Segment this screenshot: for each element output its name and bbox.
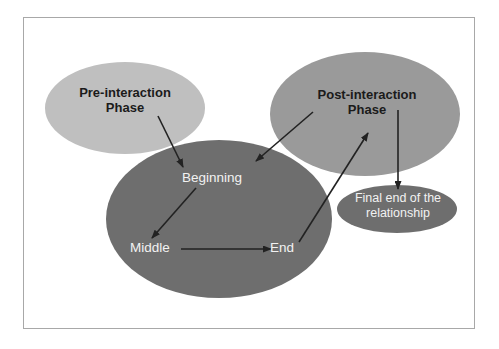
ellipse-post-interaction [270,52,460,176]
diagram-root: Pre-interaction Phase Post-interaction P… [0,0,499,349]
diagram-canvas [0,0,499,349]
ellipse-final-end [337,185,457,233]
ellipse-interaction-phase [106,140,332,298]
ellipse-pre-interaction [45,62,205,154]
